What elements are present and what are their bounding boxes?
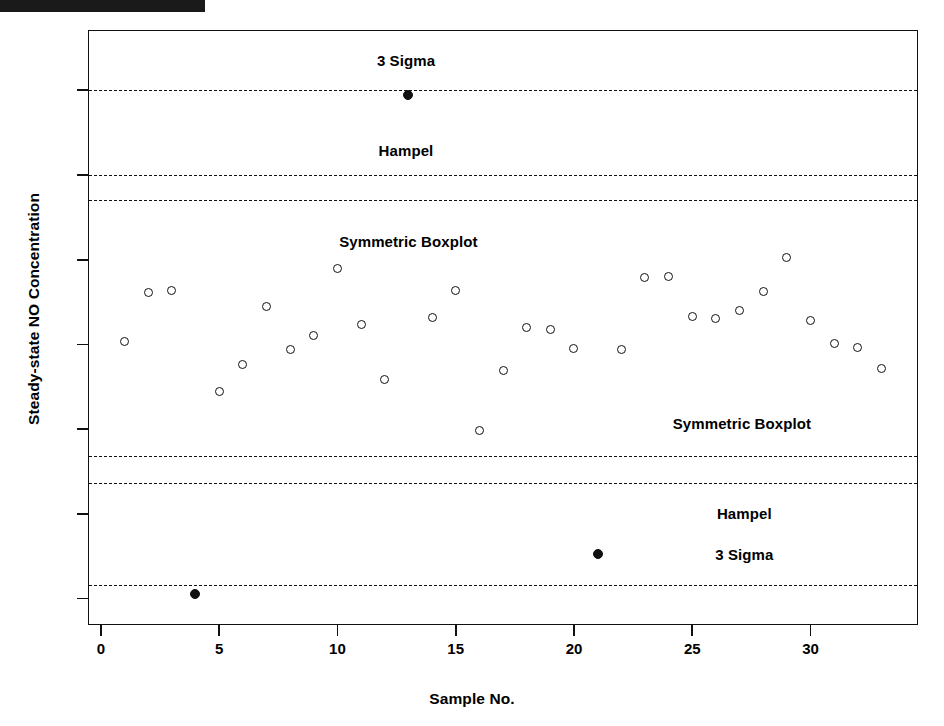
- threshold-line-hampel-upper: [89, 175, 917, 176]
- data-point: [120, 337, 129, 346]
- x-tick-label: 25: [662, 640, 722, 657]
- threshold-annotation: Symmetric Boxplot: [673, 415, 811, 432]
- x-tick-label: 10: [307, 640, 367, 657]
- data-point: [357, 320, 366, 329]
- y-tick-mark: [77, 259, 88, 261]
- data-point: [262, 302, 271, 311]
- x-tick-mark: [218, 625, 220, 636]
- scatter-chart-figure: Steady-state NO Concentration Sample No.…: [0, 0, 944, 726]
- threshold-annotation: 3 Sigma: [715, 546, 773, 563]
- data-point: [451, 286, 460, 295]
- data-point: [877, 364, 886, 373]
- y-tick-mark: [77, 174, 88, 176]
- data-point: [664, 272, 673, 281]
- y-tick-mark: [77, 89, 88, 91]
- y-tick-mark: [77, 344, 88, 346]
- x-tick-label: 20: [544, 640, 604, 657]
- data-point-outlier: [593, 549, 603, 559]
- data-point: [309, 331, 318, 340]
- x-tick-label: 30: [781, 640, 841, 657]
- data-point: [428, 313, 437, 322]
- data-point: [215, 387, 224, 396]
- data-point: [499, 366, 508, 375]
- x-tick-mark: [455, 625, 457, 636]
- data-point: [617, 345, 626, 354]
- x-tick-mark: [573, 625, 575, 636]
- x-tick-label: 0: [71, 640, 131, 657]
- data-point: [830, 339, 839, 348]
- threshold-annotation: 3 Sigma: [377, 52, 435, 69]
- threshold-line-three-sigma-lower: [89, 585, 917, 586]
- plot-frame: [88, 30, 918, 625]
- threshold-annotation: Symmetric Boxplot: [339, 233, 477, 250]
- x-tick-mark: [337, 625, 339, 636]
- threshold-line-symmetric-boxplot-lower: [89, 456, 917, 457]
- data-point: [333, 264, 342, 273]
- data-point: [475, 426, 484, 435]
- y-tick-mark: [77, 428, 88, 430]
- x-tick-label: 15: [426, 640, 486, 657]
- data-point-outlier: [403, 90, 413, 100]
- x-tick-label: 5: [189, 640, 249, 657]
- threshold-line-hampel-lower: [89, 483, 917, 484]
- data-point: [546, 325, 555, 334]
- data-point: [144, 288, 153, 297]
- threshold-annotation: Hampel: [379, 142, 434, 159]
- x-tick-mark: [691, 625, 693, 636]
- data-point: [167, 286, 176, 295]
- threshold-line-symmetric-boxplot-upper: [89, 200, 917, 201]
- threshold-line-three-sigma-upper: [89, 90, 917, 91]
- data-point: [286, 345, 295, 354]
- threshold-annotation: Hampel: [717, 505, 772, 522]
- y-tick-mark: [77, 513, 88, 515]
- data-point: [380, 375, 389, 384]
- x-axis-title: Sample No.: [0, 690, 944, 708]
- x-tick-mark: [810, 625, 812, 636]
- x-tick-mark: [100, 625, 102, 636]
- y-tick-mark: [77, 598, 88, 600]
- y-axis-title: Steady-state NO Concentration: [25, 99, 43, 519]
